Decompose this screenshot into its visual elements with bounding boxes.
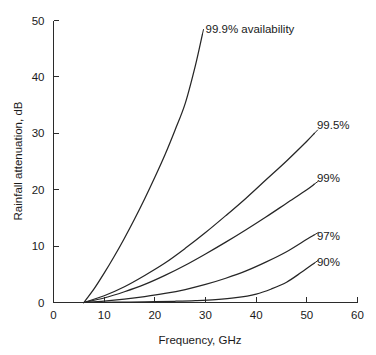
- y-tick-label: 20: [32, 184, 45, 196]
- data-curves: [84, 34, 315, 302]
- series-curve: [84, 235, 315, 303]
- y-tick-label: 0: [38, 297, 44, 309]
- series-curve: [84, 133, 315, 302]
- series-label: 97%: [317, 230, 340, 242]
- series-labels: 99.9% availability99.5%99%97%90%: [206, 23, 350, 268]
- series-label: 99.9% availability: [206, 23, 295, 35]
- y-tick-labels: 01020304050: [32, 15, 45, 309]
- axes: [54, 21, 358, 303]
- series-label: 90%: [317, 256, 340, 268]
- x-tick-label: 50: [300, 309, 313, 321]
- x-axis-title: Frequency, GHz: [159, 334, 242, 346]
- x-tick-label: 60: [351, 309, 364, 321]
- y-tick-label: 40: [32, 71, 45, 83]
- y-axis-title: Rainfall attenuation, dB: [12, 101, 24, 220]
- y-tick-label: 50: [32, 15, 45, 27]
- axis-ticks: [54, 21, 358, 303]
- x-tick-label: 0: [50, 309, 56, 321]
- x-tick-label: 10: [98, 309, 111, 321]
- series-curve: [84, 34, 203, 302]
- y-tick-label: 30: [32, 127, 45, 139]
- x-tick-label: 40: [250, 309, 263, 321]
- rainfall-attenuation-chart: 0102030405060 01020304050 99.9% availabi…: [0, 0, 376, 355]
- x-tick-labels: 0102030405060: [50, 309, 364, 321]
- chart-plot-area: 0102030405060 01020304050 99.9% availabi…: [0, 0, 376, 355]
- series-label: 99%: [317, 172, 340, 184]
- series-curve: [84, 263, 315, 302]
- y-tick-label: 10: [32, 240, 45, 252]
- series-label: 99.5%: [317, 119, 350, 131]
- x-tick-label: 20: [148, 309, 161, 321]
- x-tick-label: 30: [199, 309, 212, 321]
- series-curve: [84, 184, 315, 302]
